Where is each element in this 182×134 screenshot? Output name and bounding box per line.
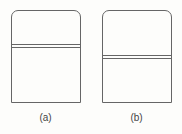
double-divider-line-b bbox=[103, 55, 171, 59]
double-divider-line-a bbox=[12, 44, 80, 48]
rounded-box-a bbox=[11, 10, 81, 103]
rounded-box-b bbox=[102, 10, 172, 103]
panel-a: (a) bbox=[0, 0, 91, 134]
panel-b: (b) bbox=[91, 0, 182, 134]
panel-label-b: (b) bbox=[91, 112, 182, 123]
panel-label-a: (a) bbox=[0, 112, 91, 123]
